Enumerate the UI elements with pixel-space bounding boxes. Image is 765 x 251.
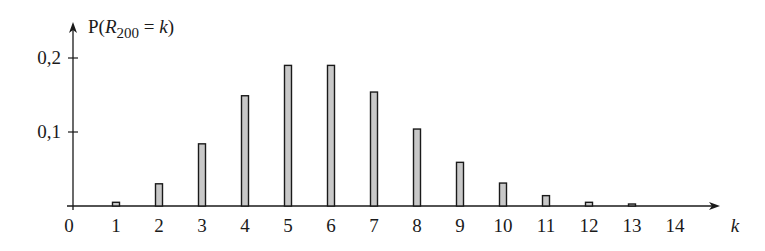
x-tick-label: 5 bbox=[283, 215, 293, 236]
x-tick-label: 7 bbox=[369, 215, 379, 236]
bar-k-10 bbox=[500, 183, 507, 206]
x-tick-label: 11 bbox=[537, 215, 555, 236]
x-axis-label: k bbox=[731, 215, 740, 236]
bar-k-1 bbox=[113, 202, 120, 206]
x-tick-label: 2 bbox=[154, 215, 164, 236]
x-tick-label: 13 bbox=[623, 215, 642, 236]
labels: 0,10,201234567891011121314kP(R200 = k) bbox=[37, 16, 740, 236]
probability-bar-chart: 0,10,201234567891011121314kP(R200 = k) bbox=[0, 0, 765, 251]
x-tick-label: 0 bbox=[64, 215, 74, 236]
x-tick-label: 4 bbox=[240, 215, 250, 236]
axes bbox=[67, 22, 720, 210]
bar-k-5 bbox=[285, 65, 292, 206]
bar-k-6 bbox=[328, 65, 335, 206]
x-tick-label: 6 bbox=[326, 215, 336, 236]
x-tick-label: 8 bbox=[412, 215, 422, 236]
x-tick-label: 1 bbox=[111, 215, 121, 236]
y-axis-label: P(R200 = k) bbox=[88, 16, 174, 41]
bar-k-8 bbox=[414, 129, 421, 206]
x-tick-label: 10 bbox=[494, 215, 513, 236]
y-tick-label: 0,2 bbox=[37, 47, 61, 68]
x-tick-label: 9 bbox=[455, 215, 465, 236]
bar-k-11 bbox=[543, 196, 550, 206]
bar-k-3 bbox=[199, 144, 206, 206]
bar-k-2 bbox=[156, 184, 163, 206]
x-tick-label: 12 bbox=[580, 215, 599, 236]
x-tick-label: 14 bbox=[666, 215, 686, 236]
x-tick-label: 3 bbox=[197, 215, 207, 236]
y-tick-label: 0,1 bbox=[37, 121, 61, 142]
bar-k-13 bbox=[629, 204, 636, 206]
bar-k-4 bbox=[242, 96, 249, 206]
bars bbox=[113, 65, 636, 206]
bar-k-12 bbox=[586, 202, 593, 206]
bar-k-7 bbox=[371, 92, 378, 206]
bar-k-9 bbox=[457, 162, 464, 206]
